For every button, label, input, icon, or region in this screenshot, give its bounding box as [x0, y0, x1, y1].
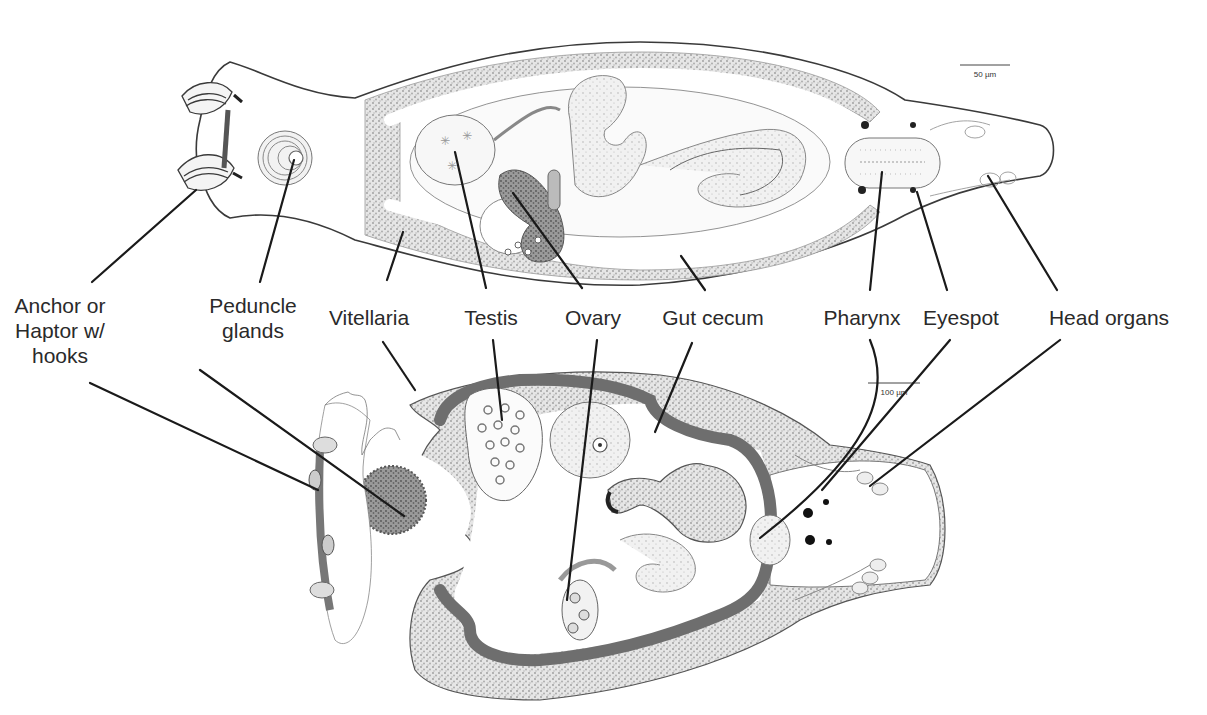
- label-testis: Testis: [464, 305, 518, 330]
- label-anchor-haptor: Anchor or Haptor w/ hooks: [14, 293, 105, 368]
- top-specimen: ✳ ✳ ✳: [178, 42, 1054, 285]
- leader-eyespot-top: [917, 192, 947, 290]
- leader-anchor-top: [92, 190, 196, 282]
- leader-peduncle-bottom: [200, 370, 404, 516]
- scale-bar-bottom: 100 µm: [868, 388, 920, 397]
- haptor-bottom: [309, 403, 371, 644]
- svg-text:✳: ✳: [440, 134, 450, 148]
- pharynx-bottom: [750, 515, 790, 565]
- leader-vitellaria-bottom: [383, 342, 415, 390]
- pharynx-top: [845, 138, 940, 188]
- leader-anchor-bottom: [90, 383, 318, 490]
- flatworm-illustration: ✳ ✳ ✳: [0, 0, 1207, 715]
- leader-head-top: [988, 176, 1057, 290]
- label-vitellaria: Vitellaria: [329, 305, 409, 330]
- svg-text:✳: ✳: [462, 129, 472, 143]
- leader-head-bottom: [870, 340, 1060, 486]
- bottom-specimen: [309, 372, 945, 700]
- peduncle-glands-top: [258, 131, 312, 185]
- label-gut-cecum: Gut cecum: [662, 305, 764, 330]
- label-peduncle-glands: Peduncle glands: [209, 293, 297, 343]
- diagram-figure: ✳ ✳ ✳: [0, 0, 1207, 715]
- label-pharynx: Pharynx: [823, 305, 900, 330]
- label-head-organs: Head organs: [1049, 305, 1169, 330]
- label-eyespot: Eyespot: [923, 305, 999, 330]
- scale-bar-top: 50 µm: [960, 70, 1010, 79]
- scale-bar-top-label: 50 µm: [974, 70, 996, 79]
- svg-text:✳: ✳: [447, 159, 457, 173]
- scale-bar-bottom-label: 100 µm: [881, 388, 908, 397]
- label-ovary: Ovary: [565, 305, 621, 330]
